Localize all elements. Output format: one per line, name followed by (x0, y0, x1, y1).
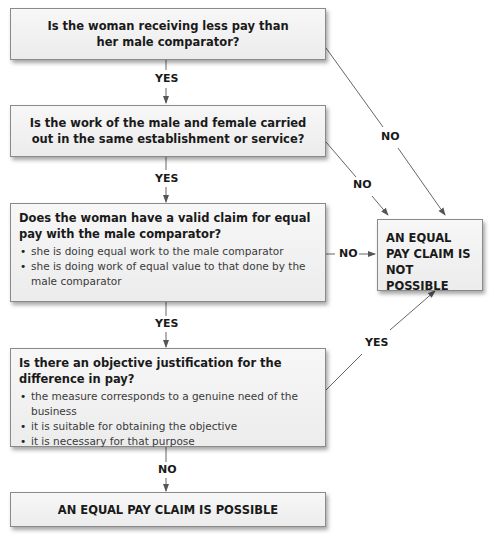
label-q2-no: NO (352, 178, 373, 191)
list-item: she is doing equal work to the male comp… (31, 244, 317, 259)
question-objective-justification: Is there an objective justification for … (10, 348, 326, 447)
label-q2-yes: YES (154, 172, 179, 185)
question-less-pay: Is the woman receiving less pay than her… (10, 8, 326, 60)
list-item: it is necessary for that purpose (31, 434, 317, 449)
question-valid-claim: Does the woman have a valid claim for eq… (10, 203, 326, 302)
list-item: she is doing work of equal value to that… (31, 259, 317, 289)
outcome-claim-not-possible-text: AN EQUAL PAY CLAIM IS NOT POSSIBLE (386, 231, 470, 293)
question-less-pay-text: Is the woman receiving less pay than her… (41, 18, 295, 50)
valid-claim-criteria-list: she is doing equal work to the male comp… (19, 244, 317, 289)
outcome-claim-possible: AN EQUAL PAY CLAIM IS POSSIBLE (10, 492, 326, 527)
label-q4-yes: YES (364, 336, 389, 349)
outcome-claim-possible-text: AN EQUAL PAY CLAIM IS POSSIBLE (58, 502, 278, 518)
label-q4-no: NO (157, 463, 178, 476)
label-q1-no: NO (380, 130, 401, 143)
question-valid-claim-text: Does the woman have a valid claim for eq… (19, 210, 317, 242)
question-same-establishment-text: Is the work of the male and female carri… (19, 115, 317, 147)
list-item: the measure corresponds to a genuine nee… (31, 389, 317, 419)
label-q3-yes: YES (154, 317, 179, 330)
outcome-claim-not-possible: AN EQUAL PAY CLAIM IS NOT POSSIBLE (377, 219, 483, 291)
question-same-establishment: Is the work of the male and female carri… (10, 105, 326, 157)
question-objective-justification-text: Is there an objective justification for … (19, 355, 317, 387)
label-q3-no: NO (338, 247, 359, 260)
label-q1-yes: YES (154, 72, 179, 85)
list-item: it is suitable for obtaining the objecti… (31, 419, 317, 434)
justification-criteria-list: the measure corresponds to a genuine nee… (19, 389, 317, 449)
